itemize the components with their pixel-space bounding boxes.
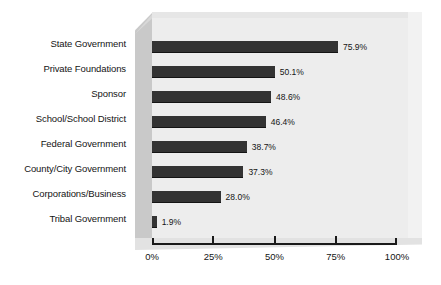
bar-value-label: 50.1% xyxy=(280,66,304,78)
bar-track: 48.6% xyxy=(152,91,397,103)
bar-row: Corporations/Business28.0% xyxy=(0,186,441,211)
x-axis-tick xyxy=(274,236,276,245)
bar-value-label: 1.9% xyxy=(162,216,181,228)
x-axis-tick-label: 75% xyxy=(326,251,345,262)
bar-value-label: 37.3% xyxy=(248,166,272,178)
x-axis-tick-label: 0% xyxy=(145,251,159,262)
bar-value-label: 46.4% xyxy=(271,116,295,128)
x-axis-tick xyxy=(395,238,397,245)
category-label: County/City Government xyxy=(0,163,126,174)
bar-track: 50.1% xyxy=(152,66,397,78)
bar xyxy=(152,116,266,128)
category-label: School/School District xyxy=(0,113,126,124)
bar xyxy=(152,91,271,103)
bar-chart: State Government75.9%Private Foundations… xyxy=(0,0,441,285)
x-axis-tick xyxy=(212,236,214,245)
bar-track: 28.0% xyxy=(152,191,397,203)
bar xyxy=(152,41,338,53)
bar-row: School/School District46.4% xyxy=(0,111,441,136)
plot-area-floor-top-edge xyxy=(152,12,420,18)
bar-value-label: 28.0% xyxy=(226,191,250,203)
bar-row: Private Foundations50.1% xyxy=(0,61,441,86)
bar xyxy=(152,216,157,228)
x-axis-tick xyxy=(152,238,154,245)
bar xyxy=(152,191,221,203)
bar-track: 75.9% xyxy=(152,41,397,53)
bar-track: 37.3% xyxy=(152,166,397,178)
bar-row: Tribal Government1.9% xyxy=(0,211,441,236)
bar xyxy=(152,66,275,78)
bar-row: County/City Government37.3% xyxy=(0,161,441,186)
bar-value-label: 48.6% xyxy=(276,91,300,103)
bar-value-label: 75.9% xyxy=(343,41,367,53)
bar-row: Sponsor48.6% xyxy=(0,86,441,111)
category-label: Sponsor xyxy=(0,88,126,99)
x-axis-tick-label: 100% xyxy=(385,251,409,262)
x-axis-tick-label: 50% xyxy=(265,251,284,262)
bar-row: State Government75.9% xyxy=(0,36,441,61)
bar xyxy=(152,166,243,178)
bar-row: Federal Government38.7% xyxy=(0,136,441,161)
bar-track: 46.4% xyxy=(152,116,397,128)
bar-rows: State Government75.9%Private Foundations… xyxy=(0,36,441,236)
x-axis-tick-label: 25% xyxy=(204,251,223,262)
category-label: Federal Government xyxy=(0,138,126,149)
category-label: Private Foundations xyxy=(0,63,126,74)
category-label: State Government xyxy=(0,38,126,49)
category-label: Tribal Government xyxy=(0,213,126,224)
bar-track: 1.9% xyxy=(152,216,397,228)
x-axis-tick xyxy=(335,236,337,245)
bar-track: 38.7% xyxy=(152,141,397,153)
category-label: Corporations/Business xyxy=(0,188,126,199)
bar-value-label: 38.7% xyxy=(252,141,276,153)
bar xyxy=(152,141,247,153)
